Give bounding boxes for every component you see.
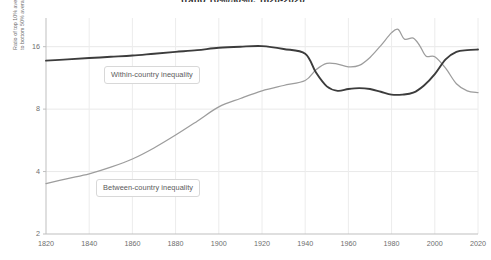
x-tick-label: 2000 [415, 239, 455, 248]
x-tick-label: 1980 [372, 239, 412, 248]
y-tick-label: 2 [18, 229, 40, 238]
callout-between-country: Between-country inequality [96, 179, 200, 197]
x-tick-label: 1960 [328, 239, 368, 248]
x-tick-label: 1920 [242, 239, 282, 248]
y-tick-label: 4 [18, 167, 40, 176]
x-tick-label: 1820 [26, 239, 66, 248]
x-tick-label: 2020 [458, 239, 491, 248]
x-tick-label: 1840 [69, 239, 109, 248]
callout-within-country: Within-country inequality [104, 66, 200, 84]
y-tick-label: 8 [18, 104, 40, 113]
x-tick-label: 1940 [285, 239, 325, 248]
y-tick-label: 16 [18, 42, 40, 51]
x-tick-label: 1860 [112, 239, 152, 248]
x-tick-label: 1900 [199, 239, 239, 248]
x-tick-label: 1880 [156, 239, 196, 248]
